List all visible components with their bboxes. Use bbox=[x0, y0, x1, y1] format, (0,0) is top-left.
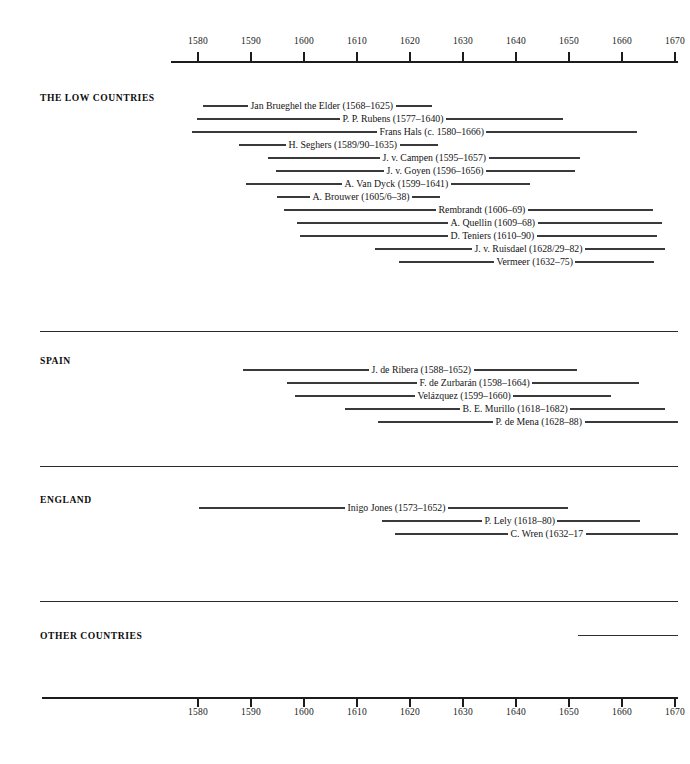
lifespan-label: C. Wren (1632–17 bbox=[508, 529, 586, 539]
lifespan-row: F. de Zurbarán (1598–1664) bbox=[287, 376, 639, 390]
lifespan-rule-right bbox=[585, 248, 665, 249]
lifespan-row: Vermeer (1632–75) bbox=[399, 255, 654, 269]
lifespan-rule-left bbox=[395, 533, 508, 534]
lifespan-rule-left bbox=[284, 209, 436, 210]
lifespan-rule-right bbox=[575, 261, 654, 262]
lifespan-label: P. de Mena (1628–88) bbox=[493, 417, 585, 427]
axis-tick-label: 1640 bbox=[499, 707, 533, 717]
lifespan-row: Inigo Jones (1573–1652) bbox=[199, 501, 568, 515]
section-separator bbox=[40, 601, 678, 602]
lifespan-rule-right bbox=[585, 421, 678, 422]
lifespan-rule-left bbox=[295, 395, 415, 396]
axis-tick-label: 1670 bbox=[658, 36, 690, 46]
lifespan-rule-right bbox=[537, 235, 657, 236]
axis-tick bbox=[303, 698, 305, 707]
lifespan-row: J. v. Ruisdael (1628/29–82) bbox=[375, 242, 665, 256]
axis-tick-label: 1660 bbox=[605, 36, 639, 46]
axis-tick bbox=[515, 698, 517, 707]
axis-tick-label: 1650 bbox=[552, 36, 586, 46]
lifespan-rule-left bbox=[345, 408, 460, 409]
lifespan-row: A. Brouwer (1605/6–38) bbox=[277, 190, 440, 204]
lifespan-row: A. Quellin (1609–68) bbox=[297, 216, 662, 230]
lifespan-rule-right bbox=[446, 118, 563, 119]
lifespan-rule-left bbox=[239, 144, 286, 145]
lifespan-rule-left bbox=[203, 105, 248, 106]
lifespan-rule-left bbox=[378, 421, 493, 422]
axis-tick bbox=[356, 52, 358, 62]
axis-tick-label: 1630 bbox=[446, 36, 480, 46]
axis-tick-label: 1620 bbox=[393, 36, 427, 46]
section-heading: ENGLAND bbox=[40, 494, 92, 505]
lifespan-rule-right bbox=[557, 520, 640, 521]
lifespan-rule-left bbox=[399, 261, 494, 262]
axis-tick-label: 1590 bbox=[234, 707, 268, 717]
lifespan-rule-right bbox=[396, 105, 432, 106]
axis-tick bbox=[621, 52, 623, 62]
lifespan-row: D. Teniers (1610–90) bbox=[300, 229, 657, 243]
lifespan-rule-left bbox=[277, 196, 310, 197]
lifespan-rule-right bbox=[448, 507, 568, 508]
lifespan-label: D. Teniers (1610–90) bbox=[448, 231, 537, 241]
lifespan-label: B. E. Murillo (1618–1682) bbox=[460, 404, 570, 414]
axis-tick-label: 1660 bbox=[605, 707, 639, 717]
axis-tick-label: 1580 bbox=[181, 36, 215, 46]
axis-tick bbox=[621, 698, 623, 707]
lifespan-rule-right bbox=[586, 533, 678, 534]
axis-tick bbox=[515, 52, 517, 62]
axis-tick-label: 1600 bbox=[287, 707, 321, 717]
axis-tick-label: 1600 bbox=[287, 36, 321, 46]
lifespan-rule-left bbox=[243, 369, 369, 370]
lifespan-rule-left bbox=[276, 170, 384, 171]
section-separator bbox=[40, 466, 678, 467]
lifespan-rule-right bbox=[532, 382, 639, 383]
lifespan-row: P. P. Rubens (1577–1640) bbox=[197, 112, 563, 126]
lifespan-rule-right bbox=[451, 183, 530, 184]
lifespan-row: P. de Mena (1628–88) bbox=[378, 415, 678, 429]
lifespan-label: Vermeer (1632–75) bbox=[494, 257, 575, 267]
axis-tick-label: 1650 bbox=[552, 707, 586, 717]
lifespan-label: Inigo Jones (1573–1652) bbox=[345, 503, 448, 513]
section-heading: SPAIN bbox=[40, 355, 71, 366]
section-separator bbox=[40, 331, 678, 332]
lifespan-rule-left bbox=[300, 235, 448, 236]
lifespan-label: H. Seghers (1589/90–1635) bbox=[286, 140, 400, 150]
lifespan-label: A. Brouwer (1605/6–38) bbox=[310, 192, 412, 202]
axis-tick bbox=[568, 52, 570, 62]
lifespan-label: Frans Hals (c. 1580–1666) bbox=[377, 127, 486, 137]
lifespan-label: Velázquez (1599–1660) bbox=[415, 391, 513, 401]
lifespan-label: F. de Zurbarán (1598–1664) bbox=[417, 378, 532, 388]
lifespan-row: Rembrandt (1606–69) bbox=[284, 203, 653, 217]
lifespan-row: J. v. Goyen (1596–1656) bbox=[276, 164, 575, 178]
lifespan-label: J. v. Ruisdael (1628/29–82) bbox=[472, 244, 585, 254]
lifespan-rule-right bbox=[474, 369, 577, 370]
axis-tick bbox=[674, 698, 676, 707]
lifespan-label: Jan Brueghel the Elder (1568–1625) bbox=[248, 101, 396, 111]
lifespan-rule-left bbox=[375, 248, 472, 249]
axis-tick bbox=[356, 698, 358, 707]
lifespan-label: P. P. Rubens (1577–1640) bbox=[340, 114, 446, 124]
lifespan-label: A. Quellin (1609–68) bbox=[448, 218, 538, 228]
lifespan-label: A. Van Dyck (1599–1641) bbox=[342, 179, 451, 189]
lifespan-rule-right bbox=[528, 209, 653, 210]
lifespan-rule-right bbox=[570, 408, 665, 409]
lifespan-row: Frans Hals (c. 1580–1666) bbox=[192, 125, 637, 139]
lifespan-rule-right bbox=[412, 196, 440, 197]
axis-tick-label: 1640 bbox=[499, 36, 533, 46]
axis-tick bbox=[568, 698, 570, 707]
lifespan-rule-left bbox=[297, 222, 448, 223]
lifespan-rule-left bbox=[197, 118, 340, 119]
section-heading: THE LOW COUNTRIES bbox=[40, 92, 155, 103]
orphan-rule bbox=[578, 635, 678, 636]
lifespan-row: B. E. Murillo (1618–1682) bbox=[345, 402, 665, 416]
axis-tick-label: 1620 bbox=[393, 707, 427, 717]
axis-tick bbox=[250, 52, 252, 62]
lifespan-row: Jan Brueghel the Elder (1568–1625) bbox=[203, 99, 432, 113]
axis-tick bbox=[197, 52, 199, 62]
lifespan-rule-left bbox=[192, 131, 377, 132]
lifespan-row: J. de Ribera (1588–1652) bbox=[243, 363, 577, 377]
lifespan-row: H. Seghers (1589/90–1635) bbox=[239, 138, 438, 152]
lifespan-rule-left bbox=[287, 382, 417, 383]
lifespan-rule-right bbox=[400, 144, 438, 145]
lifespan-rule-left bbox=[268, 157, 380, 158]
